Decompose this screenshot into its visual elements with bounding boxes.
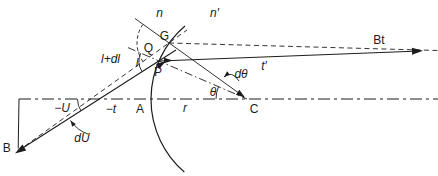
optics-refraction-figure: n n′ G Q P l l+dl Bt t′ dθ θ A r C −t −U…	[0, 0, 438, 176]
label-minus-t: −t	[106, 102, 117, 116]
label-angle-l: l	[136, 56, 139, 70]
perturbed-ray-dashed	[18, 30, 187, 151]
label-d-theta: dθ	[234, 67, 248, 81]
label-n-prime: n′	[210, 6, 220, 20]
normal-GC-line	[135, 19, 244, 97]
label-theta: θ	[210, 85, 217, 99]
incident-ray	[18, 50, 176, 151]
refracted-ray	[159, 51, 414, 61]
label-t-prime: t′	[261, 59, 267, 73]
normal-PC-line	[128, 48, 247, 99]
label-dU: dU	[74, 131, 90, 145]
angle-arc-theta	[216, 87, 219, 99]
label-minus-U: −U	[54, 101, 70, 115]
figure-canvas: n n′ G Q P l l+dl Bt t′ dθ θ A r C −t −U…	[0, 0, 438, 176]
dtheta-arrowhead	[224, 71, 230, 77]
angle-arc-minus-U	[77, 99, 81, 111]
label-point-G: G	[160, 29, 169, 43]
label-n: n	[156, 6, 163, 20]
refracted-perturbed-ray-dashed	[169, 43, 438, 51]
label-center-C: C	[250, 102, 259, 116]
label-image-point-Bt: Bt	[373, 33, 385, 47]
arrowhead-at-Bt	[412, 48, 423, 55]
ray-direction-marker-P-refracted	[164, 58, 173, 63]
object-height-line	[18, 99, 19, 149]
label-point-B: B	[3, 141, 11, 155]
label-radius-r: r	[183, 101, 188, 115]
label-point-P: P	[154, 65, 162, 79]
arrowhead-at-C	[236, 90, 245, 98]
label-vertex-A: A	[136, 102, 144, 116]
label-angle-l-plus-dl: l+dl	[101, 52, 120, 66]
label-point-Q: Q	[144, 41, 153, 55]
arrowhead-at-B	[15, 145, 26, 154]
